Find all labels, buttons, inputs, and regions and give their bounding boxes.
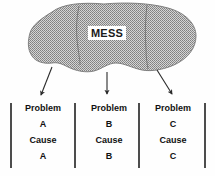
problem-cause-column-a: Problem A Cause A xyxy=(12,103,74,162)
mess-label: MESS xyxy=(88,26,126,40)
cause-label-a: Cause xyxy=(12,135,74,146)
problem-label-b: Problem xyxy=(78,103,140,114)
problem-id-c: C xyxy=(142,119,204,130)
cause-id-b: B xyxy=(78,151,140,162)
problem-cause-column-b: Problem B Cause B xyxy=(78,103,140,162)
problem-id-b: B xyxy=(78,119,140,130)
cause-label-b: Cause xyxy=(78,135,140,146)
diagram-canvas: MESS Problem A Cause A Problem B Cause B… xyxy=(0,0,215,176)
cause-id-c: C xyxy=(142,151,204,162)
problem-cause-column-c: Problem C Cause C xyxy=(142,103,204,162)
problem-label-c: Problem xyxy=(142,103,204,114)
arrow-to-problem-a xyxy=(41,67,52,95)
problem-id-a: A xyxy=(12,119,74,130)
arrow-to-problem-c xyxy=(157,70,172,94)
problem-label-a: Problem xyxy=(12,103,74,114)
cause-label-c: Cause xyxy=(142,135,204,146)
cause-id-a: A xyxy=(12,151,74,162)
